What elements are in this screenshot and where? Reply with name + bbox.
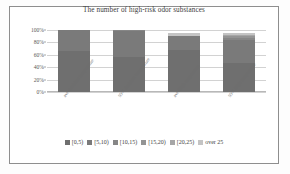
legend-swatch-icon <box>113 140 118 145</box>
legend-item[interactable]: [10,15) <box>113 139 138 145</box>
plot-area <box>47 30 266 92</box>
legend-label: [15,20) <box>148 139 166 145</box>
y-axis-tick-mark <box>44 67 46 68</box>
legend-swatch-icon <box>141 140 146 145</box>
legend-swatch-icon <box>198 140 203 145</box>
legend-swatch-icon <box>65 140 70 145</box>
legend-item[interactable]: [20,25) <box>170 139 195 145</box>
chart-title: The number of high-risk odor substances <box>9 6 279 14</box>
bar-segment[interactable] <box>223 40 255 62</box>
y-axis-tick-mark <box>44 42 46 43</box>
bar-segment[interactable] <box>168 36 200 50</box>
y-axis-tick-label: 40% <box>34 64 44 70</box>
y-axis-tick-label: 20% <box>34 77 44 83</box>
legend-swatch-icon <box>87 140 92 145</box>
bar-segment[interactable] <box>113 31 145 57</box>
y-axis-tick-label: 60% <box>34 52 44 58</box>
legend-label: over 25 <box>205 139 223 145</box>
legend-item[interactable]: [15,20) <box>141 139 166 145</box>
y-axis-tick-mark <box>44 92 46 93</box>
y-axis: 100%80%60%40%20%0% <box>14 24 46 98</box>
legend-label: [20,25) <box>177 139 195 145</box>
y-axis-tick-label: 0% <box>37 89 44 95</box>
legend-label: [10,15) <box>120 139 138 145</box>
legend-swatch-icon <box>170 140 175 145</box>
chart-legend: [0,5)[5,10)[10,15)[15,20)[20,25)over 25 <box>9 139 279 145</box>
bar-segment[interactable] <box>58 30 90 51</box>
y-axis-tick-label: 100% <box>31 27 44 33</box>
legend-label: [5,10) <box>94 139 109 145</box>
legend-item[interactable]: [0,5) <box>65 139 84 145</box>
y-axis-tick-label: 80% <box>34 39 44 45</box>
legend-item[interactable]: over 25 <box>198 139 223 145</box>
x-axis-labels: ave-Ambient temperature95% Ambient tempe… <box>47 93 266 135</box>
y-axis-tick-mark <box>44 79 46 80</box>
y-axis-tick-mark <box>44 54 46 55</box>
chart-page: The number of high-risk odor substances … <box>0 0 290 174</box>
y-axis-tick-mark <box>44 30 46 31</box>
legend-item[interactable]: [5,10) <box>87 139 109 145</box>
legend-label: [0,5) <box>72 139 84 145</box>
